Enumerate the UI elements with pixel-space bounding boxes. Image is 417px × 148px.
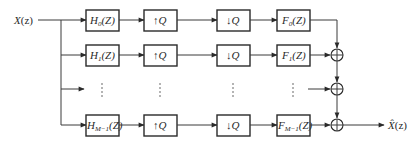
svg-text:↑Q: ↑Q [153, 49, 167, 61]
svg-text:↑Q: ↑Q [153, 119, 167, 131]
svg-text:F1(Z): F1(Z) [281, 49, 306, 63]
svg-text:X(z): X(z) [13, 14, 33, 27]
adder-2 [331, 83, 343, 95]
svg-text:↓Q: ↓Q [226, 14, 240, 26]
ellipsis-dots-1 [101, 83, 103, 97]
input-label: X(z) [13, 14, 33, 27]
filter-bank-diagram: X(z) H0(Z) ↑Q ↓Q F0(Z) H1(Z) ↑Q ↓Q F1(Z) [0, 0, 417, 148]
svg-text:H1(Z): H1(Z) [89, 49, 115, 63]
svg-text:X̂(z): X̂(z) [387, 119, 407, 132]
adder-3 [331, 119, 343, 131]
svg-text:↑Q: ↑Q [153, 14, 167, 26]
svg-text:↓Q: ↓Q [226, 119, 240, 131]
row-1: H1(Z) ↑Q ↓Q F1(Z) [86, 45, 330, 66]
svg-text:F0(Z): F0(Z) [281, 14, 306, 28]
ellipsis-dots-4 [292, 83, 294, 97]
svg-text:↓Q: ↓Q [226, 49, 240, 61]
ellipsis-row [101, 83, 330, 97]
output-label: X̂(z) [387, 119, 407, 132]
row-0: H0(Z) ↑Q ↓Q F0(Z) [86, 10, 337, 48]
row-m-minus-1: HM−1(Z) ↑Q ↓Q FM−1(Z) [86, 115, 330, 136]
adder-1 [331, 49, 343, 61]
svg-text:H0(Z): H0(Z) [89, 14, 115, 28]
ellipsis-dots-2 [159, 83, 161, 97]
ellipsis-dots-3 [232, 83, 234, 97]
